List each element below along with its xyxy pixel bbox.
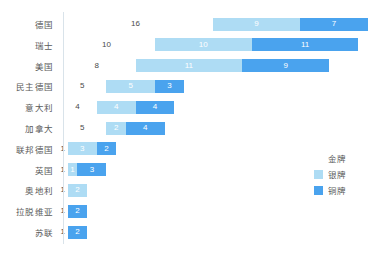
bar-segment-铜牌[interactable]: 2 [97,142,116,155]
bar-segment-金牌[interactable]: 16 [58,18,213,31]
bar-value-label: 2 [75,207,79,215]
legend-item-银牌[interactable]: 银牌 [314,166,374,182]
chart-row: 美国8119 [0,56,379,76]
bar-segment-银牌[interactable]: 2 [68,184,87,197]
bar-track: 553 [58,80,379,93]
bar-segment-金牌[interactable]: 10 [58,38,155,51]
bar-segment-铜牌[interactable]: 7 [300,18,368,31]
bar-segment-金牌[interactable]: 5 [58,122,106,135]
bar-value-label: 3 [90,166,94,174]
category-label-0: 德国 [0,18,58,30]
bar-value-label: 2 [104,145,108,153]
chart-legend: 金牌银牌铜牌 [314,150,374,198]
category-label-10: 苏联 [0,226,58,238]
category-label-6: 联邦德国 [0,143,58,155]
legend-item-金牌[interactable]: 金牌 [314,150,374,166]
chart-row: 民主德国553 [0,76,379,96]
bar-segment-铜牌[interactable]: 4 [136,101,175,114]
bar-value-label: 4 [143,124,147,132]
bar-segment-银牌[interactable]: 1 [68,163,78,176]
bar-value-label: 8 [95,62,99,70]
bar-value-label: 10 [199,41,208,49]
chart-row: 加拿大524 [0,118,379,138]
bar-track: 8119 [58,59,379,72]
legend-swatch-icon [314,186,323,195]
bar-segment-铜牌[interactable]: 3 [77,163,106,176]
chart-row: 瑞士101011 [0,35,379,55]
chart-row: 苏联12 [0,222,379,242]
plot-area: 德国1697瑞士101011美国8119民主德国553意大利444加拿大524联… [0,0,379,267]
category-label-3: 民主德国 [0,80,58,92]
bar-segment-金牌[interactable]: 8 [58,59,136,72]
bar-segment-银牌[interactable]: 9 [213,18,300,31]
legend-swatch-icon [314,154,323,163]
bar-value-label: 4 [114,103,118,111]
category-label-5: 加拿大 [0,122,58,134]
bar-value-label: 9 [254,20,258,28]
bar-value-label: 2 [114,124,118,132]
bar-track: 1697 [58,18,379,31]
category-label-9: 拉脱维亚 [0,205,58,217]
chart-row: 拉脱维亚12 [0,201,379,221]
bar-value-label: 3 [167,82,171,90]
legend-label: 金牌 [328,152,346,164]
bar-segment-铜牌[interactable]: 4 [126,122,165,135]
chart-row: 意大利444 [0,97,379,117]
bar-value-label: 16 [131,20,140,28]
bar-segment-铜牌[interactable]: 2 [68,205,87,218]
legend-label: 银牌 [328,168,346,180]
bar-value-label: 5 [128,82,132,90]
bar-segment-银牌[interactable]: 3 [68,142,97,155]
bar-segment-铜牌[interactable]: 11 [252,38,359,51]
bar-value-label: 9 [283,62,287,70]
legend-label: 铜牌 [328,184,346,196]
bar-segment-银牌[interactable]: 10 [155,38,252,51]
category-label-1: 瑞士 [0,39,58,51]
bar-track: 12 [58,205,379,218]
bar-track: 444 [58,101,379,114]
bar-value-label: 7 [332,20,336,28]
bar-track: 524 [58,122,379,135]
bar-segment-金牌[interactable]: 5 [58,80,106,93]
category-axis-line [63,12,64,244]
bar-segment-银牌[interactable]: 2 [106,122,125,135]
bar-track: 101011 [58,38,379,51]
bar-track: 12 [58,226,379,239]
chart-row: 德国1697 [0,14,379,34]
bar-value-label: 4 [75,103,79,111]
bar-value-label: 5 [80,124,84,132]
category-label-7: 英国 [0,164,58,176]
bar-segment-铜牌[interactable]: 3 [155,80,184,93]
bar-segment-铜牌[interactable]: 9 [242,59,329,72]
legend-item-铜牌[interactable]: 铜牌 [314,182,374,198]
bar-value-label: 5 [80,82,84,90]
bar-segment-银牌[interactable]: 11 [136,59,243,72]
bar-segment-银牌[interactable]: 4 [97,101,136,114]
bar-value-label: 2 [75,186,79,194]
bar-value-label: 1 [70,166,74,174]
bar-value-label: 10 [102,41,111,49]
category-label-8: 奥地利 [0,184,58,196]
bar-value-label: 2 [75,228,79,236]
bar-value-label: 11 [301,41,309,49]
legend-swatch-icon [314,170,323,179]
category-label-4: 意大利 [0,101,58,113]
stacked-bar-chart: 德国1697瑞士101011美国8119民主德国553意大利444加拿大524联… [0,0,379,267]
bar-value-label: 4 [153,103,157,111]
bar-segment-银牌[interactable]: 5 [106,80,154,93]
category-label-2: 美国 [0,60,58,72]
bar-segment-铜牌[interactable]: 2 [68,226,87,239]
bar-value-label: 11 [185,62,193,70]
bar-value-label: 3 [80,145,84,153]
